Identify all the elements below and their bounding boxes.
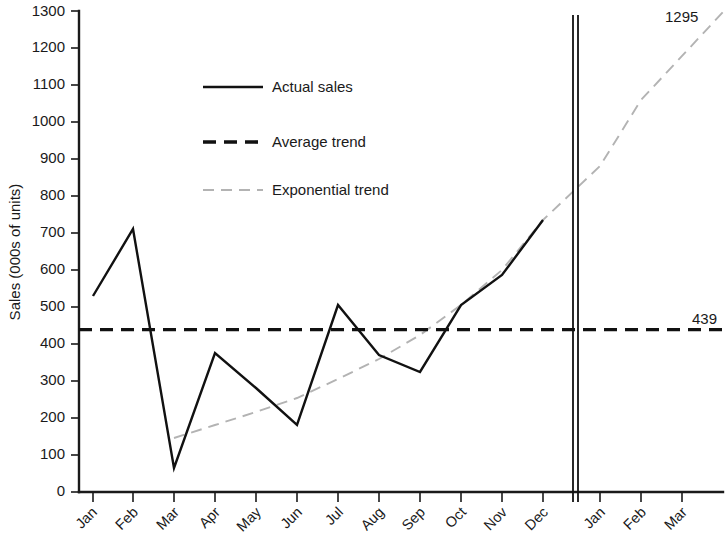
series-line-actual-sales [93, 220, 543, 468]
x-tick-label-jul: Jul [322, 504, 346, 528]
x-tick-label-nov: Nov [481, 503, 511, 533]
x-tick-label-mar-1: Mar [153, 504, 182, 533]
y-tick-label: 200 [40, 408, 65, 425]
legend-item-actual-sales: Actual sales [203, 78, 353, 95]
legend-label-exponential-trend: Exponential trend [272, 181, 389, 198]
y-axis-tick-labels: 1300 1200 1100 1000 900 800 700 600 500 … [32, 2, 65, 499]
exponential-trend-value-label: 1295 [665, 8, 698, 25]
x-axis-tick-labels: Jan Feb Mar Apr May Jun Jul Aug Sep Oct … [72, 503, 690, 534]
x-tick-label-may: May [233, 503, 264, 534]
x-axis-ticks [93, 492, 682, 502]
legend-item-average-trend: Average trend [203, 133, 366, 150]
y-tick-label: 900 [40, 149, 65, 166]
legend-label-average-trend: Average trend [272, 133, 366, 150]
chart-canvas: 1300 1200 1100 1000 900 800 700 600 500 … [0, 0, 725, 555]
x-tick-label-feb-1: Feb [112, 504, 141, 533]
y-tick-label: 0 [57, 482, 65, 499]
x-tick-label-apr: Apr [196, 504, 223, 531]
y-tick-label: 500 [40, 297, 65, 314]
y-axis-title: Sales (000s of units) [6, 184, 23, 321]
y-tick-label: 700 [40, 223, 65, 240]
x-tick-label-jan-2: Jan [580, 504, 608, 532]
legend-label-actual-sales: Actual sales [272, 78, 353, 95]
y-tick-label: 600 [40, 260, 65, 277]
y-tick-label: 1200 [32, 38, 65, 55]
sales-forecast-chart: 1300 1200 1100 1000 900 800 700 600 500 … [0, 0, 725, 555]
x-tick-label-jun: Jun [277, 504, 305, 532]
x-tick-label-mar-2: Mar [661, 504, 690, 533]
y-tick-label: 1300 [32, 2, 65, 19]
x-tick-label-dec: Dec [522, 504, 552, 534]
chart-legend: Actual sales Average trend Exponential t… [203, 78, 389, 198]
x-tick-label-sep: Sep [399, 504, 429, 534]
forecast-divider [573, 15, 578, 502]
x-tick-label-jan-1: Jan [72, 504, 100, 532]
y-tick-label: 1000 [32, 112, 65, 129]
y-tick-label: 300 [40, 371, 65, 388]
x-tick-label-feb-2: Feb [620, 504, 649, 533]
x-tick-label-oct: Oct [442, 504, 469, 531]
average-trend-value-label: 439 [692, 310, 717, 327]
y-tick-label: 400 [40, 334, 65, 351]
series-line-exponential-trend [174, 12, 723, 438]
legend-item-exponential-trend: Exponential trend [203, 181, 389, 198]
y-tick-label: 100 [40, 445, 65, 462]
y-tick-label: 800 [40, 186, 65, 203]
y-tick-label: 1100 [33, 75, 65, 92]
x-tick-label-aug: Aug [358, 504, 388, 534]
